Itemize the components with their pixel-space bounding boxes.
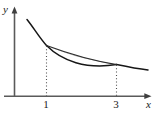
lens-region-fill bbox=[47, 46, 117, 65]
curve-path-tail bbox=[117, 65, 149, 70]
x-tick-label-1: 1 bbox=[41, 99, 51, 110]
curve-path bbox=[27, 20, 117, 66]
y-axis-label: y bbox=[3, 4, 8, 15]
arrow-up-icon bbox=[12, 7, 18, 14]
graph-canvas bbox=[0, 0, 157, 113]
secant-chord-path bbox=[47, 46, 117, 65]
x-tick-label-3: 3 bbox=[111, 99, 121, 110]
figure-container: y x 1 3 bbox=[0, 0, 157, 113]
x-axis-label: x bbox=[146, 99, 151, 110]
